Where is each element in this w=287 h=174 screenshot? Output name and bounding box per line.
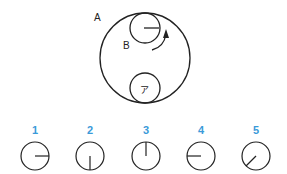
option-3[interactable]: 3 [132,124,160,170]
needle-down-left-icon [246,156,256,166]
label-b: B [123,40,130,51]
coin-rotation-diagram: A B ア 1 2 3 4 5 [0,0,287,174]
label-a: A [94,12,101,23]
option-number: 1 [32,124,38,136]
option-4[interactable]: 4 [187,124,215,170]
option-number: 2 [87,124,93,136]
option-2[interactable]: 2 [76,124,104,170]
arrow-head-icon [163,29,169,38]
option-number: 4 [198,124,205,136]
option-5[interactable]: 5 [242,124,270,170]
option-number: 3 [143,124,149,136]
label-a-katakana: ア [140,85,149,95]
option-1[interactable]: 1 [21,124,49,170]
option-number: 5 [253,124,259,136]
